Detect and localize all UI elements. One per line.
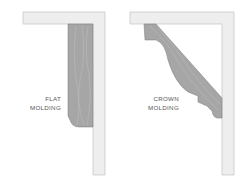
crown-label-line-1: CROWN [153, 95, 179, 102]
crown-molding-panel: CROWN MOLDING [130, 12, 234, 175]
flat-label-line-1: FLAT [45, 95, 61, 102]
flat-label-line-2: MOLDING [30, 104, 61, 111]
crown-label-line-2: MOLDING [148, 104, 179, 111]
flat-molding-panel: FLAT MOLDING [23, 12, 105, 175]
molding-diagram: FLAT MOLDING CROWN MOLDING [0, 0, 245, 184]
